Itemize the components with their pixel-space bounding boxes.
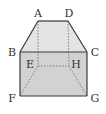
vertex-label-D: D <box>65 7 74 20</box>
prism-diagram: A D B C E H F G <box>0 0 106 114</box>
vertex-label-A: A <box>33 7 43 20</box>
vertex-label-G: G <box>91 92 100 105</box>
vertex-label-E: E <box>26 58 34 71</box>
vertex-label-B: B <box>8 46 16 59</box>
vertex-label-C: C <box>91 46 99 59</box>
vertex-label-H: H <box>71 58 81 71</box>
vertex-label-F: F <box>8 92 16 105</box>
